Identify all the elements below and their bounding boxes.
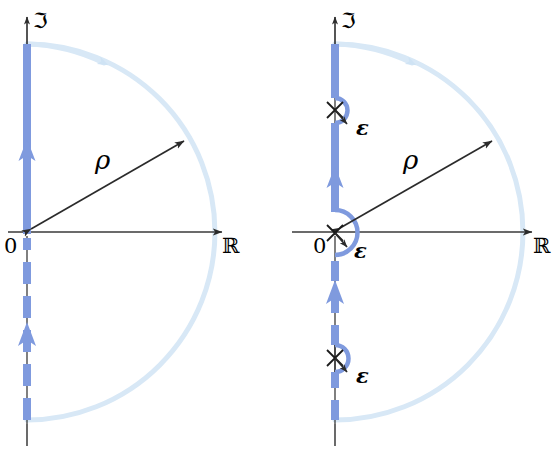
epsilon-label-upper: ε [356, 115, 369, 140]
figure-svg [0, 0, 556, 458]
upper-solid-contour-left [19, 44, 36, 234]
real-axis-label-right: ℝ [533, 234, 550, 258]
imaginary-axis-label-left: ℑ [33, 9, 48, 33]
imaginary-axis-label-right: ℑ [341, 9, 356, 33]
epsilon-label-lower: ε [356, 363, 369, 388]
upper-solid-contour-right [327, 44, 358, 255]
epsilon-arrow-origin [335, 233, 347, 247]
real-axis-label-left: ℝ [222, 234, 239, 258]
rho-label-left: ρ [95, 145, 110, 175]
panel-right [292, 17, 532, 446]
epsilon-label-origin: ε [354, 238, 367, 263]
rho-label-right: ρ [403, 145, 418, 175]
figure-canvas: ℑ ℝ 0 ρ ℑ ℝ 0 ρ ε ε ε [0, 0, 556, 458]
lower-dashed-contour-right [326, 257, 349, 420]
origin-label-right: 0 [313, 234, 326, 258]
origin-label-left: 0 [4, 234, 17, 258]
panel-left [8, 17, 222, 446]
